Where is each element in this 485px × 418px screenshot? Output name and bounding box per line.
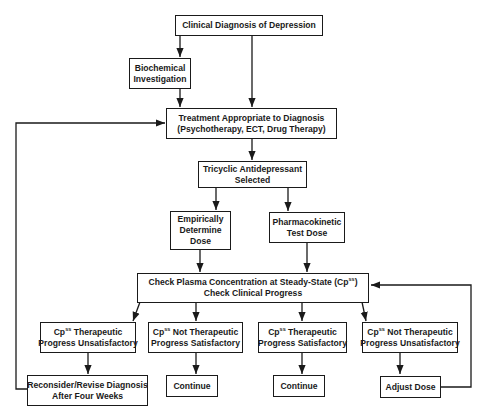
node-label-line1: Empirically	[178, 214, 224, 225]
node-label-line1: Pharmacokinetic	[273, 217, 342, 228]
node-empirically-determine-dose: Empirically Determine Dose	[170, 211, 231, 250]
node-label-line1: Cpss Not Therapeutic	[367, 327, 452, 338]
node-tricyclic-selected: Tricyclic Antidepressant Selected	[198, 161, 307, 188]
flowchart-canvas: Clinical Diagnosis of Depression Biochem…	[0, 0, 485, 418]
node-label-line1: Reconsider/Revise Diagnosis	[27, 380, 147, 391]
node-adjust-dose: Adjust Dose	[380, 376, 441, 398]
node-label-line2: Progress Satisfactory	[151, 338, 240, 349]
node-label-line2: (Psychotherapy, ECT, Drug Therapy)	[177, 124, 325, 135]
node-label: Continue	[173, 381, 210, 392]
node-check-plasma-concentration: Check Plasma Concentration at Steady-Sta…	[137, 273, 369, 303]
node-outcome-therapeutic-satisfactory: Cpss Therapeutic Progress Satisfactory	[258, 322, 347, 353]
node-label-line2: Progress Satisfactory	[258, 338, 347, 349]
node-label-line2: Check Clinical Progress	[204, 288, 302, 299]
node-label-line2: Progress Unsatisfactory	[360, 338, 459, 349]
node-outcome-not-therapeutic-satisfactory: Cpss Not Therapeutic Progress Satisfacto…	[148, 322, 243, 353]
node-continue-1: Continue	[166, 375, 218, 397]
node-pharmacokinetic-test-dose: Pharmacokinetic Test Dose	[269, 212, 345, 243]
edge-check-out4	[362, 302, 366, 321]
node-label-line2: Test Dose	[287, 228, 327, 239]
node-label-line2: Investigation	[133, 74, 186, 85]
node-clinical-diagnosis: Clinical Diagnosis of Depression	[175, 15, 323, 36]
node-continue-2: Continue	[273, 375, 325, 397]
node-label-line1: Treatment Appropriate to Diagnosis	[179, 113, 325, 124]
node-treatment: Treatment Appropriate to Diagnosis (Psyc…	[166, 108, 337, 139]
edge-check-out1	[133, 302, 140, 321]
node-label-line1: Check Plasma Concentration at Steady-Sta…	[148, 277, 357, 288]
node-label-line3: Dose	[190, 236, 211, 247]
node-biochemical-investigation: Biochemical Investigation	[129, 58, 191, 89]
node-label-line2: Progress Unsatisfactory	[38, 338, 137, 349]
node-outcome-therapeutic-unsatisfactory: Cpss Therapeutic Progress Unsatisfactory	[40, 322, 136, 353]
node-label: Clinical Diagnosis of Depression	[182, 20, 316, 31]
node-reconsider-revise-diagnosis: Reconsider/Revise Diagnosis After Four W…	[27, 375, 148, 406]
node-label-line1: Biochemical	[135, 63, 186, 74]
node-label: Continue	[280, 381, 317, 392]
node-outcome-not-therapeutic-unsatisfactory: Cpss Not Therapeutic Progress Unsatisfac…	[362, 322, 458, 353]
node-label-line1: Cpss Not Therapeutic	[153, 327, 238, 338]
node-label-line1: Cpss Therapeutic	[54, 327, 123, 338]
node-label-line1: Tricyclic Antidepressant	[203, 164, 302, 175]
edges-layer	[0, 0, 485, 418]
node-label-line1: Cpss Therapeutic	[268, 327, 337, 338]
node-label-line2: After Four Weeks	[52, 391, 123, 402]
node-label-line2: Determine	[179, 225, 221, 236]
node-label: Adjust Dose	[385, 382, 435, 393]
node-label-line2: Selected	[235, 175, 270, 186]
